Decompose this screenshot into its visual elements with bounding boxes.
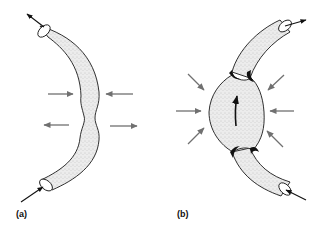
flow-arrow-in-icon <box>21 187 43 202</box>
flow-arrow-out-icon <box>27 14 44 27</box>
panel-a <box>21 14 137 202</box>
force-arrow-icon <box>267 131 283 147</box>
joint-shadow <box>250 147 259 154</box>
force-arrow-icon <box>188 74 204 90</box>
force-arrow-icon <box>268 75 284 90</box>
panel-a-label: (a) <box>16 209 27 219</box>
panel-b <box>176 18 306 200</box>
tube-deformation-figure <box>0 0 325 233</box>
force-arrow-icon <box>188 128 204 144</box>
panel-b-label: (b) <box>177 209 189 219</box>
tube-a-body <box>40 26 99 190</box>
tube-b-bulge <box>209 75 264 152</box>
